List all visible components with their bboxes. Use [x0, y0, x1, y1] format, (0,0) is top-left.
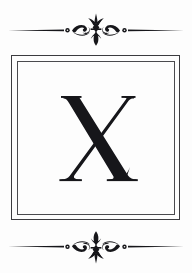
bottom-ornament — [6, 229, 186, 265]
monogram-frame — [11, 55, 180, 220]
top-ornament — [6, 12, 186, 48]
monogram-card — [0, 0, 192, 273]
monogram-letter — [12, 56, 179, 219]
